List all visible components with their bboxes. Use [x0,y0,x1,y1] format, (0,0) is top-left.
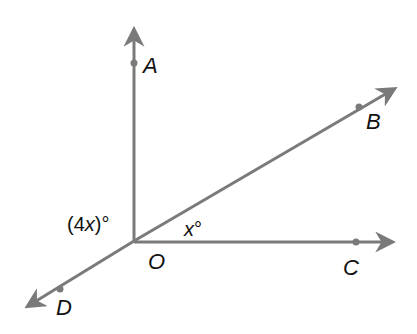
diagram-canvas [0,0,417,334]
label-a: A [143,55,158,77]
angle-diagram: A B C D O (4x)° x° [0,0,417,334]
label-o: O [148,251,165,273]
label-b: B [366,111,381,133]
label-c: C [343,257,359,279]
angle-label-x: x° [184,219,202,239]
point-b [356,104,363,111]
angle-label-4x: (4x)° [67,214,109,234]
point-c [353,239,360,246]
point-a [131,60,138,67]
ray-od [28,241,134,306]
point-d [57,286,64,293]
label-d: D [56,297,72,319]
ray-ob [134,89,394,241]
